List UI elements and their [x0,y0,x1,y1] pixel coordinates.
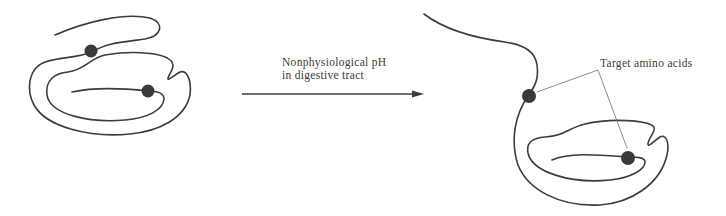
unfolded-protein [424,14,668,205]
arrow-label-line1: Nonphysiological pH [282,56,386,69]
arrow-condition-label: Nonphysiological pH in digestive tract [282,56,386,82]
folded-protein-chain [29,16,190,135]
unfolded-protein-chain [424,14,668,205]
target-amino-acid-dot [85,45,98,58]
target-amino-acids-label: Target amino acids [600,57,693,70]
arrow-label-line2: in digestive tract [282,69,386,82]
arrowhead-icon [412,91,424,98]
folded-protein [29,16,190,135]
target-amino-acid-dot [621,151,635,165]
target-amino-acid-dot [142,85,155,98]
reaction-arrow [242,91,424,98]
target-amino-acid-dot [522,89,536,103]
protein-unfolding-diagram [0,0,726,216]
